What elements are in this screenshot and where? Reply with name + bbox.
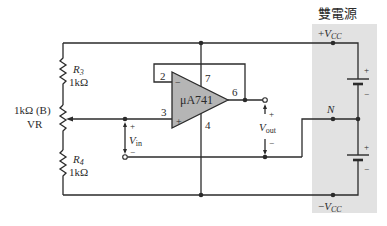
vout-label: Vout [259,121,277,135]
battery-lower-minus: − [364,164,369,174]
vin-plus-node [123,117,128,122]
output-node [243,98,248,103]
vr-value: 1kΩ (B) [14,104,51,117]
vout-plus-terminal [263,98,268,103]
opamp-plus: + [176,116,182,127]
arrow-up-icon [263,104,267,109]
opamp-label: μA741 [180,93,213,107]
vin-label: Vin [129,134,142,148]
battery-upper-plus: + [364,65,369,75]
resistor-r4 [60,150,66,195]
r4-value: 1kΩ [69,166,88,178]
dual-supply-title: 雙電源 [318,6,357,21]
potentiometer-vr [60,105,66,150]
arrow-down-icon [123,149,127,154]
pin-2: 2 [160,70,166,82]
r3-value: 1kΩ [69,76,88,88]
arrow-down-icon [263,150,267,155]
vin-plus-sign: + [130,121,135,131]
circuit-diagram: 雙電源 + − + − +VCC N −VCC R3 1kΩ 1kΩ (B) V… [0,0,387,226]
neutral-node [331,117,336,122]
vout-minus-sign: − [269,138,274,148]
pin-6: 6 [232,86,238,98]
r3-label: R3 [72,63,84,77]
resistor-r3 [60,43,66,105]
vcc-minus-node [331,193,336,198]
neutral-label: N [326,103,335,115]
wiper-arrow-icon [66,117,73,122]
vout-minus-node [263,155,268,160]
opamp-minus: − [175,77,181,88]
vin-minus-sign: − [130,147,135,157]
vout-plus-sign: + [269,109,274,119]
pin-7: 7 [205,72,211,84]
vcc-plus-node [331,41,336,46]
vr-name: VR [27,118,43,130]
junction-dot [356,117,361,122]
pin-3: 3 [161,106,167,118]
arrow-up-icon [123,122,127,127]
battery-upper-minus: − [364,89,369,99]
r4-label: R4 [72,153,84,167]
vin-minus-terminal [123,155,128,160]
battery-lower-plus: + [364,142,369,152]
pin-4: 4 [205,119,211,131]
